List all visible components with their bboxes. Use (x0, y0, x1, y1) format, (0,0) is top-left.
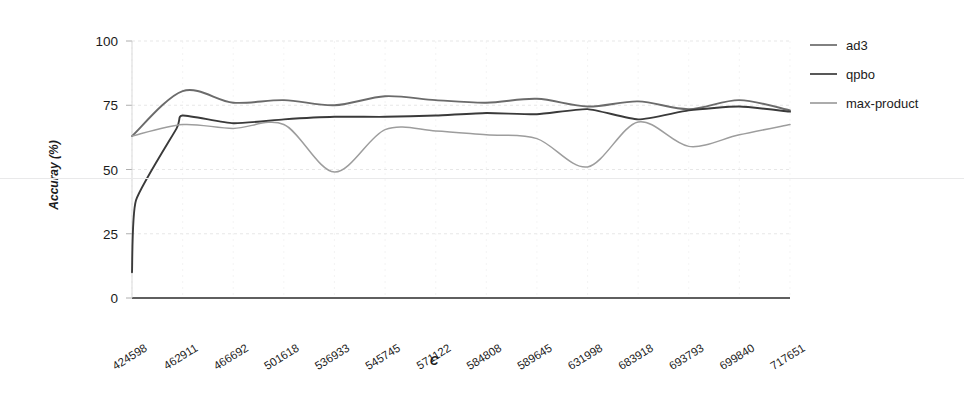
y-tick-label: 50 (103, 163, 118, 178)
series-line-qpbo (132, 107, 790, 273)
data-series-group (132, 90, 790, 272)
y-axis: 1007550250 (95, 34, 132, 306)
line-chart-figure: 1007550250 42459846291146669250161853693… (0, 0, 964, 394)
x-tick-label: 545745 (363, 342, 402, 373)
x-tick-label: 466692 (211, 342, 250, 373)
series-line-max-product (132, 122, 790, 172)
legend: ad3qpbomax-product (810, 38, 919, 111)
x-tick-label: 501618 (262, 342, 301, 373)
horizontal-gridlines (132, 41, 790, 234)
x-axis-title: C (430, 354, 439, 368)
y-tick-label: 100 (95, 34, 118, 49)
x-tick-label: 584808 (464, 342, 503, 373)
chart-canvas: 1007550250 42459846291146669250161853693… (0, 0, 964, 394)
x-tick-label: 683918 (616, 342, 655, 373)
y-tick-label: 25 (103, 227, 118, 242)
x-tick-label: 462911 (161, 342, 199, 372)
x-axis: 4245984629114666925016185369335457455711… (110, 342, 807, 373)
series-line-ad3 (132, 90, 790, 136)
legend-label-max-product: max-product (846, 96, 919, 111)
x-tick-label: 699840 (718, 342, 757, 373)
x-tick-label: 631998 (566, 342, 605, 373)
x-tick-label: 536933 (313, 342, 352, 373)
y-tick-label: 0 (110, 291, 118, 306)
x-tick-label: 424598 (110, 342, 149, 373)
x-tick-label: 693793 (667, 342, 706, 373)
legend-label-qpbo: qpbo (846, 67, 875, 82)
legend-label-ad3: ad3 (846, 38, 868, 53)
y-axis-title: Accuray (%) (47, 140, 61, 210)
y-tick-label: 75 (103, 98, 118, 113)
x-tick-label: 717651 (768, 342, 807, 373)
x-tick-label: 589645 (515, 342, 554, 373)
scan-artifact-line (0, 178, 964, 179)
